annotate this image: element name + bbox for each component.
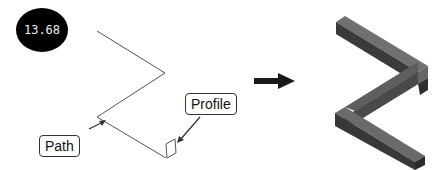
sweep-path-line: [97, 31, 166, 158]
swept-solid: [335, 16, 428, 170]
path-callout: Path: [39, 135, 80, 157]
profile-shape: [166, 139, 176, 158]
profile-leader: [180, 117, 200, 140]
arrow-right-icon: [254, 73, 295, 89]
path-label: Path: [45, 138, 74, 154]
profile-label: Profile: [191, 96, 231, 112]
profile-callout: Profile: [185, 93, 237, 115]
